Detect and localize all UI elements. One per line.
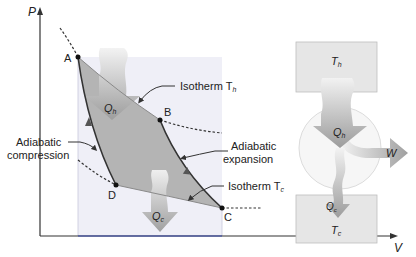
point-a [76,55,81,60]
isotherm-h-label: Isotherm Th [180,80,236,93]
adiabatic-compression-label: Adiabatic compression [7,136,69,161]
point-b-label: B [164,106,171,118]
p-axis-arrow-icon [37,7,43,15]
p-axis-label: P [28,5,36,19]
v-axis-arrow-icon [390,233,398,239]
isotherm-c-label: Isotherm Tc [228,180,284,193]
adiabatic-expansion-label: Adiabatic expansion [223,140,279,165]
point-a-label: A [64,52,72,64]
point-d-label: D [108,189,116,201]
heat-engine-schematic: Th Tc W Qc Qh [296,42,408,243]
point-c [220,206,225,211]
point-b [158,118,163,123]
carnot-cycle-diagram: P V Qh Qc A B C D Isotherm Th [0,0,416,257]
point-c-label: C [224,211,232,223]
point-d [114,183,119,188]
work-label: W [386,147,398,159]
v-axis-label: V [394,241,403,255]
